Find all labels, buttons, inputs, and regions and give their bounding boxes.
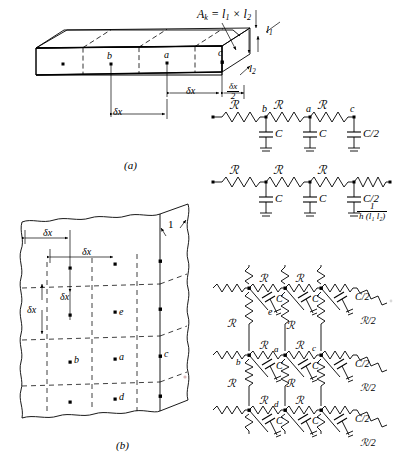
stray-speck: [183, 375, 186, 378]
panel-a-caption: (a): [124, 160, 137, 171]
panel-a-nodes: [62, 61, 224, 66]
circuit1-resistor-2: ℛ: [273, 99, 283, 111]
circuit3-c-row2-1: C: [276, 361, 283, 371]
circuit3-r-row1-1: ℛ: [259, 273, 268, 284]
circuit3-redge-row1: ℛ/2: [360, 316, 376, 326]
panel-b-dim-top-inner: δx: [82, 247, 91, 257]
panel-b-grid-side: [160, 274, 187, 382]
circuit3-node-a: a: [274, 345, 279, 354]
slab-node-label-c: c: [218, 48, 222, 58]
circuit1-node-a: a: [306, 104, 311, 114]
circuit-1: [213, 112, 361, 151]
circuit2-cap-2: C: [319, 193, 326, 204]
circuit3-c-row3-2: C: [312, 416, 319, 426]
circuit1-cap-3: C/2: [363, 128, 379, 139]
circuit3-node-e: e: [268, 307, 272, 317]
dim-deltax-outer: δx: [113, 107, 122, 117]
circuit3-c-row1-2: C: [312, 294, 319, 304]
circuit1-resistor-3: ℛ: [317, 99, 327, 111]
panel-b-grid: [22, 254, 160, 411]
stray-speck-2: [390, 300, 393, 303]
panel-b-node-label-a: a: [119, 352, 124, 362]
circuit1-resistor-1: ℛ: [229, 99, 239, 111]
circuit3-r-row2-1: ℛ: [259, 340, 268, 351]
panel-b-dim-top-outer: δx: [43, 228, 52, 238]
circuit3-c-row1-half: C/2: [355, 292, 369, 302]
panel-b-node-label-e: e: [119, 307, 123, 317]
circuit3-rvert-2: ℛ: [286, 320, 295, 331]
circuit3-c-row3-1: C: [276, 416, 283, 426]
circuit1-node-c: c: [350, 104, 354, 114]
circuit1-cap-1: C: [275, 128, 282, 139]
panel-b-dim-vert-inner: δx: [60, 292, 69, 302]
area-formula: Ak = l1 × l2: [197, 8, 251, 22]
circuit3-r-row1-2: ℛ: [295, 273, 304, 284]
circuit2-resistor-1: ℛ: [229, 164, 239, 176]
circuit3-node-b: b: [236, 358, 241, 367]
circuit3-redge-row3: ℛ/2: [360, 438, 376, 448]
circuit3-redge-row2: ℛ/2: [360, 383, 376, 393]
panel-b-thickness-label: 1: [168, 219, 174, 230]
panel-a-leaders: [111, 62, 222, 117]
panel-b-node-label-d: d: [119, 392, 124, 402]
panel-a-area-leader: [222, 23, 236, 50]
edge-label-l2: l2: [249, 63, 256, 75]
circuit3-r-row2-2: ℛ: [295, 340, 304, 351]
circuit3-r-row3-1: ℛ: [259, 395, 268, 406]
circuit3-r-row3-2: ℛ: [295, 395, 304, 406]
circuit3-c-row1-1: C: [276, 294, 283, 304]
slab-node-label-a: a: [164, 50, 169, 60]
dim-deltax-inner: δx: [186, 86, 195, 96]
circuit3-node-d: d: [274, 400, 279, 409]
figure-root: Ak = l1 × l2 l1 l2 b a c δx δx δx2 (a) ℛ…: [0, 0, 407, 460]
circuit2-resistor-3: ℛ: [317, 164, 327, 176]
circuit3-rvert-3: ℛ: [227, 378, 236, 389]
circuit3-c-row2-half: C/2: [355, 359, 369, 369]
panel-b-dim-vert-outer: δx: [27, 305, 36, 315]
panel-b-node-label-b: b: [74, 355, 79, 365]
circuit1-cap-2: C: [319, 128, 326, 139]
circuit3-rvert-1: ℛ: [227, 318, 236, 329]
panel-b-caption: (b): [116, 440, 129, 451]
panel-b-node-label-c: c: [164, 349, 168, 359]
figure-svg: [0, 0, 407, 460]
circuit3-node-c: c: [312, 344, 316, 353]
circuit1-node-b: b: [262, 104, 267, 114]
panel-a-cell-divisions: [83, 29, 223, 75]
circuit3-c-row3-half: C/2: [355, 414, 369, 424]
circuit3-rvert-4: ℛ: [286, 378, 295, 389]
slab-node-label-b: b: [107, 51, 112, 61]
edge-label-l1: l1: [266, 24, 273, 36]
circuit2-terminal-resistance: 1h (l₁ l₂): [357, 202, 387, 222]
circuit2-resistor-2: ℛ: [273, 164, 283, 176]
circuit3-c-row2-2: C: [312, 361, 319, 371]
circuit2-cap-1: C: [275, 193, 282, 204]
